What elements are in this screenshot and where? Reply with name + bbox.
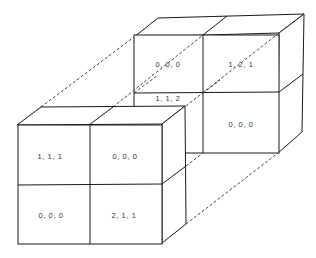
front-top-right-label: 0, 0, 0 [112, 152, 137, 161]
dashed-line-top-left [41, 37, 134, 107]
dashed-line-middle-right [186, 153, 203, 166]
front-top-left-label: 1, 1, 1 [37, 152, 62, 161]
back-bottom-left-label: 1, 1, 2 [155, 94, 180, 103]
cube-diagram: 0, 0, 0 1, 2, 1 1, 1, 2 0, 0, 0 1, 1, 1 … [0, 0, 316, 258]
back-bottom-right-label: 0, 0, 0 [228, 120, 253, 129]
back-top-right-label: 1, 2, 1 [228, 60, 253, 69]
front-bottom-left-label: 0, 0, 0 [38, 211, 63, 220]
back-top-left-label: 0, 0, 0 [155, 60, 180, 69]
dashed-line-bottom-right [186, 153, 278, 224]
front-block [17, 106, 186, 244]
front-bottom-right-label: 2, 1, 1 [111, 211, 136, 220]
